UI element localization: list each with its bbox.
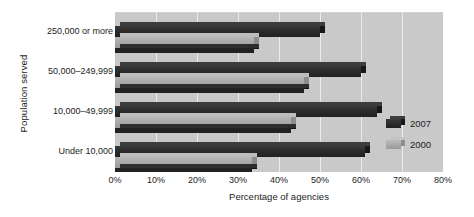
- legend-swatch-icon: [386, 119, 401, 128]
- bar-depth-shadow: [115, 88, 304, 93]
- x-tick-label: 30%: [218, 175, 258, 185]
- x-tick-label: 20%: [177, 175, 217, 185]
- bar-depth-shadow: [115, 128, 291, 133]
- y-tick-label: 10,000–49,999: [13, 106, 113, 116]
- x-tick-label: 80%: [423, 175, 463, 185]
- x-tick-label: 60%: [341, 175, 381, 185]
- legend-swatch-icon: [386, 140, 401, 149]
- bar-depth-shadow: [115, 168, 252, 172]
- x-tick-label: 10%: [136, 175, 176, 185]
- x-tick-label: 40%: [259, 175, 299, 185]
- legend-item-2007[interactable]: 2007: [386, 116, 456, 133]
- x-tick-label: 50%: [300, 175, 340, 185]
- y-tick-label: 250,000 or more: [13, 26, 113, 36]
- x-axis-title: Percentage of agencies: [115, 191, 443, 202]
- x-tick-label: 70%: [382, 175, 422, 185]
- legend-item-2000[interactable]: 2000: [386, 137, 456, 154]
- legend: 2007 2000: [386, 116, 456, 158]
- x-axis-tick-labels: 0%10%20%30%40%50%60%70%80%: [0, 175, 474, 189]
- bar-depth-shadow: [115, 48, 254, 53]
- y-tick-label: 50,000–249,999: [13, 66, 113, 76]
- legend-label: 2000: [410, 139, 431, 150]
- legend-label: 2007: [410, 118, 431, 129]
- bar-chart: Population served 250,000 or more 50,000…: [0, 0, 474, 217]
- x-tick-label: 0%: [95, 175, 135, 185]
- y-tick-label: Under 10,000: [13, 146, 113, 156]
